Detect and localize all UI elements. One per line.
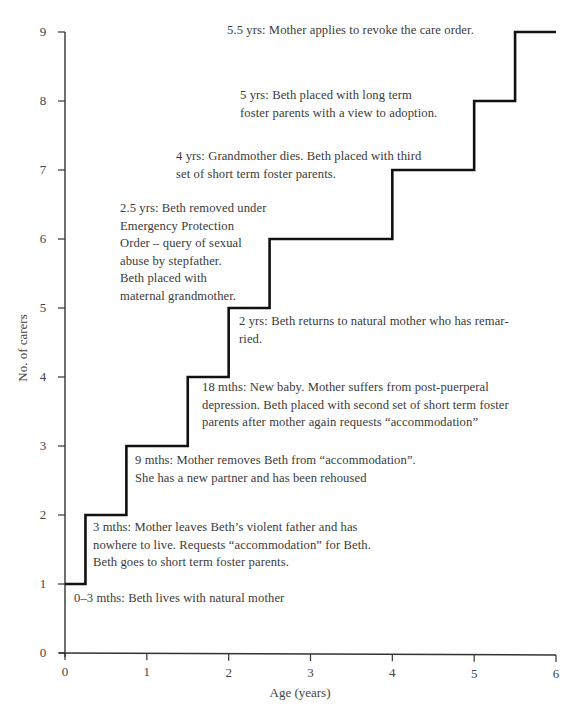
annotation-18-months: 18 mths: New baby. Mother suffers from p… — [202, 379, 509, 432]
annotation-2-5-years: 2.5 yrs: Beth removed under Emergency Pr… — [120, 200, 266, 305]
x-tick-label: 6 — [553, 666, 560, 681]
y-tick-label: 9 — [40, 24, 47, 39]
annotation-9-months: 9 mths: Mother removes Beth from “accomm… — [135, 452, 416, 487]
x-axis-title: Age (years) — [270, 685, 331, 700]
x-tick-label: 5 — [471, 666, 478, 681]
y-tick-label: 7 — [40, 162, 47, 177]
y-tick-label: 4 — [40, 369, 47, 384]
x-tick-label: 0 — [62, 664, 69, 679]
x-tick-label: 2 — [225, 665, 232, 680]
x-tick-label: 3 — [307, 665, 314, 680]
annotation-5-years: 5 yrs: Beth placed with long term foster… — [240, 87, 437, 122]
x-tick-label: 4 — [389, 665, 396, 680]
x-axis-line — [59, 653, 556, 655]
annotation-2-years: 2 yrs: Beth returns to natural mother wh… — [239, 313, 509, 348]
annotation-0-3-months: 0–3 mths: Beth lives with natural mother — [74, 590, 284, 608]
y-tick-label: 1 — [40, 576, 47, 591]
y-tick-label: 0 — [40, 645, 47, 660]
axes: 01234567890123456 — [40, 24, 560, 681]
annotation-4-years: 4 yrs: Grandmother dies. Beth placed wit… — [176, 148, 421, 183]
y-tick-label: 2 — [40, 507, 47, 522]
annotation-3-months: 3 mths: Mother leaves Beth’s violent fat… — [93, 519, 371, 572]
y-tick-label: 6 — [40, 231, 47, 246]
y-tick-label: 3 — [40, 438, 47, 453]
annotation-5-5-years: 5.5 yrs: Mother applies to revoke the ca… — [227, 22, 474, 40]
y-tick-label: 5 — [40, 300, 47, 315]
x-tick-label: 1 — [144, 664, 151, 679]
y-axis-title: No. of carers — [15, 314, 30, 382]
y-tick-label: 8 — [40, 93, 47, 108]
